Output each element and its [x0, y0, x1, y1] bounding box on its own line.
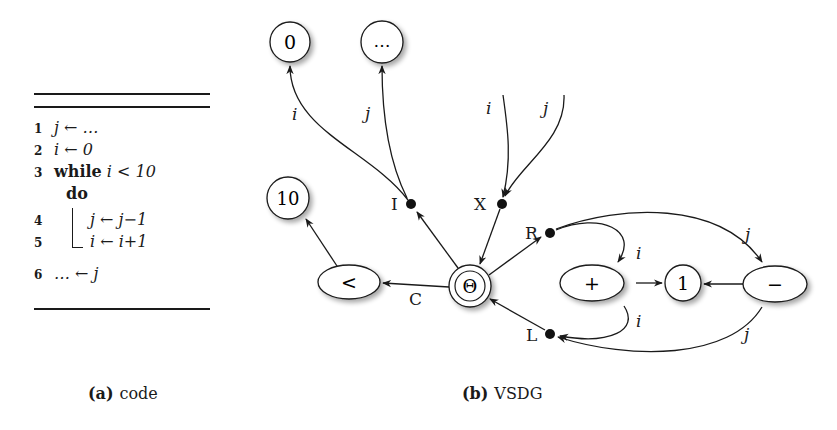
svg-text:1: 1 — [677, 272, 689, 294]
port-I-label: I — [391, 194, 398, 214]
port-X-dot — [497, 199, 507, 209]
svg-text:…: … — [374, 31, 391, 51]
edge-j-into-X — [505, 95, 564, 196]
edge-R-to-plus — [556, 223, 624, 262]
node-dots: … — [361, 21, 403, 63]
port-R-dot — [545, 228, 555, 238]
node-minus: − — [743, 266, 807, 302]
svg-text:−: − — [767, 273, 783, 295]
svg-text:0: 0 — [284, 31, 296, 53]
edge-X-to-theta — [480, 209, 500, 264]
edge-R-to-minus — [556, 212, 762, 262]
port-C-label: C — [409, 289, 422, 309]
node-zero: 0 — [270, 22, 310, 62]
edge-I-to-dots — [382, 66, 407, 198]
edge-label-j-x: j — [539, 98, 549, 118]
edge-theta-to-I — [417, 212, 458, 268]
edge-label-j-l: j — [740, 324, 750, 344]
svg-text:Θ: Θ — [463, 276, 478, 297]
port-R-label: R — [525, 223, 539, 243]
edge-i-into-X — [503, 95, 508, 197]
svg-text:10: 10 — [277, 188, 300, 209]
port-L-label: L — [526, 325, 537, 345]
edge-I-to-zero — [290, 66, 408, 200]
port-I-dot — [406, 199, 416, 209]
node-ten: 10 — [267, 177, 309, 219]
edge-theta-to-less — [383, 283, 449, 287]
node-less-than: < — [318, 265, 380, 299]
edge-minus-to-L — [558, 307, 762, 352]
port-L-dot — [545, 329, 555, 339]
svg-text:<: < — [341, 271, 357, 293]
node-plus: + — [560, 265, 624, 301]
svg-text:+: + — [584, 272, 600, 294]
edge-less-to-ten — [306, 219, 337, 266]
node-theta: Θ — [449, 265, 491, 307]
edge-label-i-plus: i — [636, 243, 641, 263]
node-one: 1 — [665, 265, 701, 301]
edge-label-j-dots: j — [361, 103, 371, 123]
edge-label-i-l: i — [636, 311, 641, 331]
port-X-label: X — [474, 194, 487, 214]
vsdg-graph: 0 … 10 < Θ + 1 − I X R L C i — [0, 0, 837, 430]
edge-plus-to-L — [560, 306, 628, 339]
edge-label-i-x: i — [486, 98, 491, 118]
edge-label-i-zero: i — [292, 104, 297, 124]
